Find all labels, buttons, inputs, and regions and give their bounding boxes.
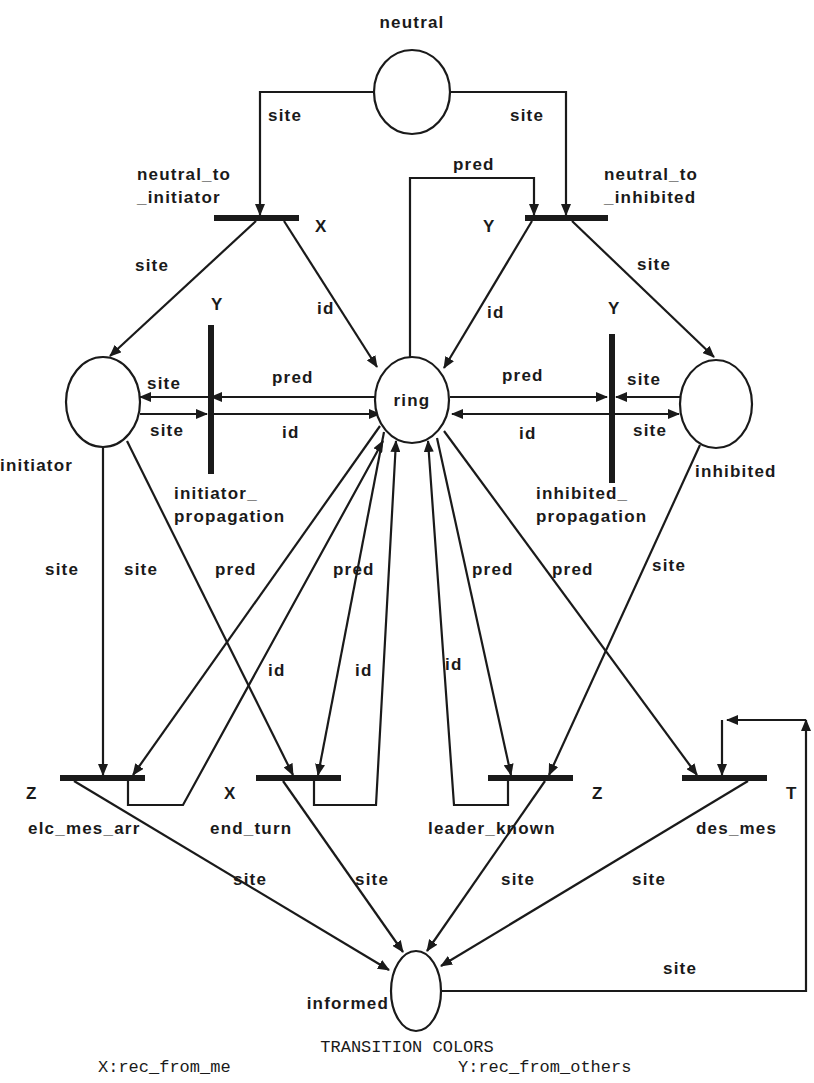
transition-label: des_mes: [696, 819, 777, 838]
arc-pred: [318, 432, 384, 775]
arc-label: site: [663, 959, 697, 978]
transition-color-tag: Z: [592, 784, 604, 803]
place-neutral: [374, 50, 450, 134]
arc-label: site: [501, 870, 535, 889]
legend-entry-x: X:rec_from_me: [98, 1058, 231, 1077]
transition-colors-legend: TRANSITION COLORS X:rec_from_me Y:rec_fr…: [98, 1038, 631, 1077]
transition-label: neutral_to: [137, 165, 231, 184]
transition-label: initiator_: [174, 484, 258, 503]
arc-label: id: [282, 423, 300, 442]
arc-label: id: [317, 299, 335, 318]
arc-id: [444, 221, 532, 368]
arc-site: [283, 781, 403, 952]
transition-neutral-to-inhibited: [525, 215, 608, 221]
arc-label: id: [487, 303, 505, 322]
place-label: informed: [307, 994, 389, 1013]
arc-labels-layer: sitesitepredsiteididsitepredsitesiteidpr…: [45, 106, 697, 978]
arc-label: pred: [453, 155, 495, 174]
transition-color-tag: X: [224, 784, 237, 803]
arc-label: pred: [215, 560, 257, 579]
transition-label: elc_mes_arr: [28, 819, 140, 838]
arc-pred: [444, 431, 697, 775]
arc-label: site: [150, 421, 184, 440]
transition-color-tag: T: [786, 784, 798, 803]
transition-leader-known: [488, 775, 573, 781]
transition-initiator-propagation: [208, 325, 214, 474]
transition-label: neutral_to: [604, 165, 698, 184]
legend-entry-y: Y:rec_from_others: [458, 1058, 631, 1077]
transition-color-tag: X: [315, 217, 328, 236]
transition-label: _inhibited: [603, 188, 696, 207]
arc-label: site: [147, 374, 181, 393]
arc-label: id: [268, 661, 286, 680]
transition-end-turn: [256, 775, 341, 781]
arc-label: id: [519, 424, 537, 443]
transition-elc-mes-arr: [60, 775, 145, 781]
arc-label: site: [124, 560, 158, 579]
arc-id: [314, 441, 396, 805]
arc-label: pred: [502, 366, 544, 385]
place-informed: [391, 951, 441, 1031]
arc-pred: [410, 178, 534, 357]
place-label: inhibited: [695, 462, 777, 481]
arc-site: [110, 221, 256, 356]
transition-label: leader_known: [428, 819, 556, 838]
transition-neutral-to-initiator: [214, 215, 299, 221]
arc-label: site: [632, 870, 666, 889]
place-inhibited: [680, 360, 752, 448]
legend-title: TRANSITION COLORS: [320, 1038, 493, 1057]
arc-site: [450, 92, 566, 215]
arc-label: site: [135, 256, 169, 275]
arc-pred: [133, 426, 380, 775]
arc-label: id: [355, 661, 373, 680]
transition-label: inhibited_: [536, 484, 628, 503]
arc-label: pred: [333, 560, 375, 579]
arc-label: pred: [472, 560, 514, 579]
place-label: initiator: [0, 456, 73, 475]
transition-color-tag: Y: [608, 299, 621, 318]
arc-site: [427, 781, 545, 951]
place-label: neutral: [379, 13, 444, 32]
transition-inhibited-propagation: [609, 334, 615, 483]
transition-label: _initiator: [136, 188, 221, 207]
place-initiator: [66, 357, 140, 447]
arc-label: site: [45, 560, 79, 579]
place-label: ring: [394, 391, 431, 410]
arc-label: id: [445, 655, 463, 674]
transition-label: propagation: [536, 507, 647, 526]
transition-des-mes: [682, 775, 767, 781]
arc-label: site: [233, 870, 267, 889]
transition-color-tag: Z: [26, 784, 38, 803]
arc-id: [284, 221, 377, 367]
arc-label: site: [268, 106, 302, 125]
arc-label: pred: [272, 368, 314, 387]
transition-label: end_turn: [210, 819, 292, 838]
petri-net-diagram: neutral_to_initiatorXneutral_to_inhibite…: [0, 0, 814, 1083]
arc-label: site: [652, 556, 686, 575]
arc-site: [572, 221, 714, 357]
arc-label: pred: [552, 560, 594, 579]
arc-label: site: [627, 370, 661, 389]
arc-label: site: [633, 421, 667, 440]
arc-label: site: [355, 870, 389, 889]
arc-site: [74, 781, 389, 970]
transition-label: propagation: [174, 507, 285, 526]
arc-label: site: [510, 106, 544, 125]
arc-label: site: [637, 255, 671, 274]
arcs-layer: [74, 92, 806, 991]
arc-site: [441, 781, 748, 966]
transition-color-tag: Y: [483, 217, 496, 236]
transition-color-tag: Y: [211, 295, 224, 314]
arc-id: [428, 441, 508, 805]
